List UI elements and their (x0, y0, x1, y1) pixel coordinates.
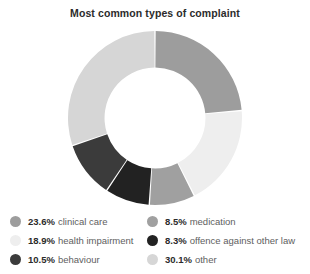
donut-chart-svg (64, 26, 246, 210)
legend-label: health impairment (58, 235, 134, 246)
legend-value: 8.5% (165, 216, 187, 227)
legend-label: behaviour (58, 254, 100, 265)
legend-column-left: 23.6% clinical care 18.9% health impairm… (10, 212, 150, 269)
legend-swatch-icon (147, 216, 158, 227)
donut-slice[interactable] (178, 111, 242, 195)
legend-swatch-icon (147, 235, 158, 246)
chart-card: Most common types of complaint 23.6% cli… (0, 0, 310, 274)
legend-item[interactable]: 10.5% behaviour (10, 250, 150, 269)
chart-legend: 23.6% clinical care 18.9% health impairm… (0, 212, 310, 274)
legend-value: 8.3% (165, 235, 187, 246)
legend-label: offence against other law (190, 235, 295, 246)
donut-chart (64, 26, 246, 210)
legend-swatch-icon (10, 254, 21, 265)
legend-label: other (195, 254, 217, 265)
legend-item[interactable]: 8.3% offence against other law (147, 231, 310, 250)
donut-slice[interactable] (155, 31, 241, 113)
legend-swatch-icon (147, 254, 158, 265)
legend-swatch-icon (10, 235, 21, 246)
legend-value: 30.1% (165, 254, 192, 265)
legend-swatch-icon (10, 216, 21, 227)
legend-value: 23.6% (28, 216, 55, 227)
chart-title: Most common types of complaint (0, 7, 310, 19)
legend-value: 10.5% (28, 254, 55, 265)
legend-item[interactable]: 8.5% medication (147, 212, 310, 231)
donut-slice[interactable] (68, 31, 155, 145)
legend-item[interactable]: 30.1% other (147, 250, 310, 269)
legend-item[interactable]: 18.9% health impairment (10, 231, 150, 250)
legend-label: clinical care (58, 216, 108, 227)
legend-label: medication (190, 216, 236, 227)
legend-value: 18.9% (28, 235, 55, 246)
donut-slice-group (68, 31, 242, 205)
legend-column-right: 8.5% medication 8.3% offence against oth… (147, 212, 310, 269)
legend-item[interactable]: 23.6% clinical care (10, 212, 150, 231)
